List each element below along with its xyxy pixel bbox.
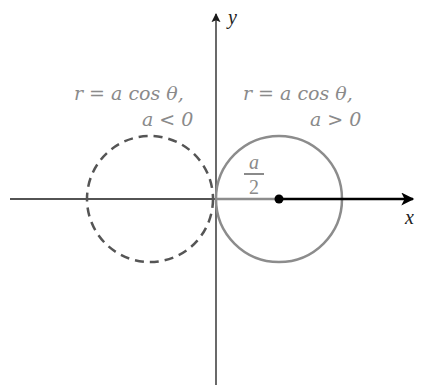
label-a-positive-condition: a > 0	[310, 108, 361, 130]
label-a-negative-condition: a < 0	[142, 108, 193, 130]
fraction-bar	[244, 173, 264, 175]
fraction-denominator: 2	[244, 177, 264, 197]
label-a-positive-equation: r = a cos θ,	[243, 82, 353, 104]
radius-fraction-label: a 2	[244, 152, 264, 197]
x-axis-label: x	[405, 206, 414, 229]
y-axis-label: y	[228, 6, 237, 29]
center-dot	[275, 195, 284, 204]
diagram-canvas	[0, 0, 425, 392]
fraction-numerator: a	[244, 152, 264, 172]
label-a-negative-equation: r = a cos θ,	[74, 82, 184, 104]
